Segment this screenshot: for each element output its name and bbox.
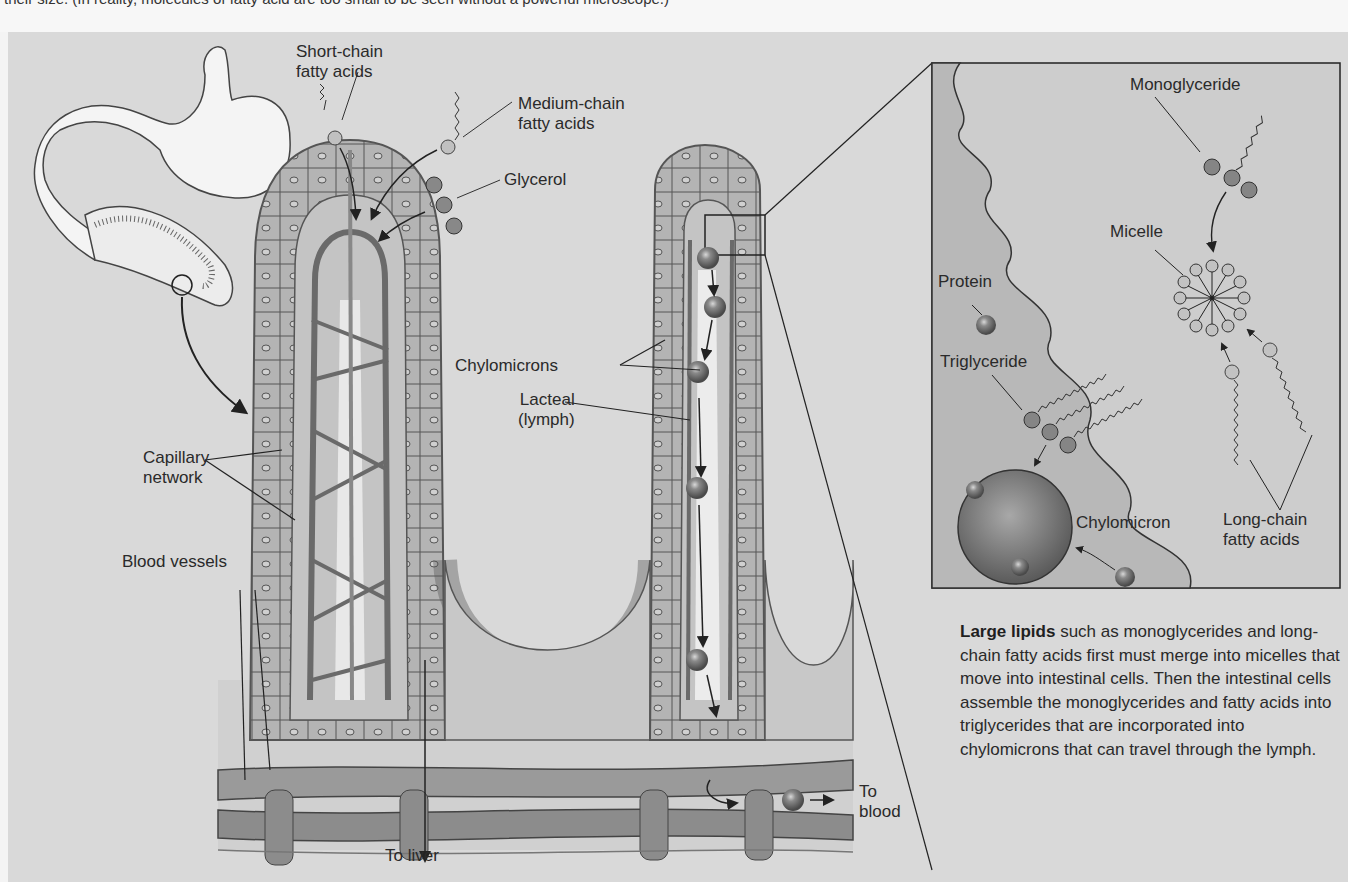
label-glycerol: Glycerol — [504, 170, 566, 190]
label-monoglyceride: Monoglyceride — [1130, 75, 1241, 95]
villus-right — [650, 145, 765, 740]
label-medium-chain-fatty-acids: Medium-chainfatty acids — [518, 94, 625, 134]
stomach-icon — [34, 47, 290, 412]
label-chylomicron: Chylomicron — [1076, 513, 1170, 533]
label-long-chain-fatty-acids: Long-chainfatty acids — [1223, 510, 1307, 550]
figure-caption: Large lipids such as monoglycerides and … — [960, 620, 1340, 761]
label-protein: Protein — [938, 272, 992, 292]
villus-left — [250, 140, 445, 740]
label-blood-vessels: Blood vessels — [122, 552, 227, 572]
label-lacteal: Lacteal(lymph) — [518, 390, 575, 430]
caption-bold-term: Large lipids — [960, 622, 1055, 641]
label-to-blood: Toblood — [859, 782, 901, 822]
caption-text: such as monoglycerides and long-chain fa… — [960, 622, 1340, 759]
label-micelle: Micelle — [1110, 222, 1163, 242]
label-to-liver: To liver — [385, 846, 439, 866]
label-chylomicrons: Chylomicrons — [455, 356, 558, 376]
label-short-chain-fatty-acids: Short-chainfatty acids — [296, 42, 383, 82]
label-triglyceride: Triglyceride — [940, 352, 1027, 372]
label-capillary-network: Capillarynetwork — [143, 448, 209, 488]
